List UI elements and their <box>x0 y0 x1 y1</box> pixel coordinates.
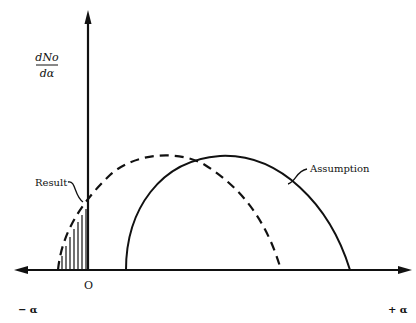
y-axis-arrow-icon <box>85 10 92 24</box>
y-label-numerator: dNo <box>35 51 59 64</box>
y-axis-label: dNo dα <box>35 51 59 80</box>
diagram-canvas: dNo dα Result Assumption O − α + α <box>0 0 416 323</box>
assumption-leader-line <box>288 169 307 184</box>
result-label: Result <box>35 177 67 188</box>
assumption-label: Assumption <box>309 163 370 174</box>
result-leader-line <box>68 182 83 202</box>
x-axis-left-arrow-icon <box>14 266 28 274</box>
y-label-denominator: dα <box>40 67 55 80</box>
minus-alpha-label: − α <box>18 304 38 315</box>
origin-label: O <box>84 279 93 292</box>
plus-alpha-label: + α <box>388 304 408 315</box>
x-axis-right-arrow-icon <box>398 266 412 274</box>
